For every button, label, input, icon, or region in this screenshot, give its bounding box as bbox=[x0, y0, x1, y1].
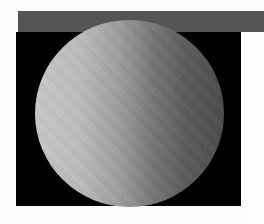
shaded-sphere bbox=[35, 20, 224, 207]
right-white-panel bbox=[241, 32, 264, 224]
